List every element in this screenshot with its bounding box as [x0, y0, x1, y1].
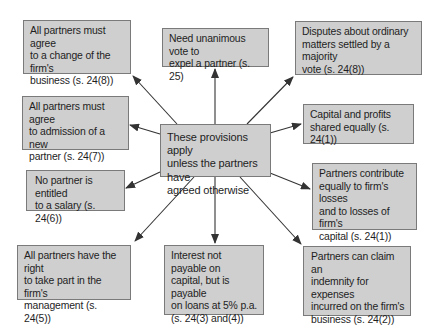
- node-expel-partner: Need unanimous vote to expel a partner (…: [162, 28, 269, 67]
- node-change-business: All partners must agree to a change of t…: [23, 20, 131, 74]
- arrow-to-admission-partner: [130, 125, 160, 134]
- node-capital-profits: Capital and profits shared equally (s. 2…: [303, 104, 414, 144]
- node-interest-capital: Interest not payable on capital, but is …: [164, 245, 264, 315]
- node-contribute-losses: Partners contribute equally to firm's lo…: [312, 163, 417, 230]
- arrow-to-indemnity-expenses: [240, 177, 301, 244]
- arrow-to-disputes-majority: [247, 77, 293, 124]
- node-indemnity-expenses: Partners can claim an indemnity for expe…: [303, 246, 411, 316]
- arrow-to-capital-profits: [270, 124, 301, 133]
- arrow-to-contribute-losses: [270, 173, 310, 189]
- node-admission-partner: All partners must agree to admission of …: [22, 96, 129, 150]
- node-no-salary: No partner is entitled to a salary (s. 2…: [26, 170, 125, 211]
- node-disputes-majority: Disputes about ordinary matters settled …: [295, 21, 422, 75]
- center-node: These provisions apply unless the partne…: [160, 124, 271, 177]
- node-management-right: All partners have the right to take part…: [17, 245, 131, 300]
- arrow-to-no-salary: [126, 172, 160, 188]
